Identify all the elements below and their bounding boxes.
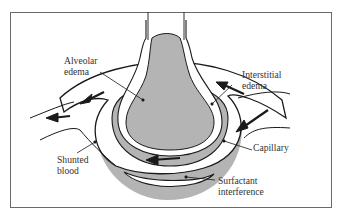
leader-shunted-blood: [77, 142, 95, 153]
label-capillary: Capillary: [253, 143, 289, 154]
label-interstitial-edema: Interstitial edema: [242, 70, 281, 91]
right-vessel-lower: [244, 127, 290, 138]
label-shunted-blood: Shunted blood: [57, 155, 88, 176]
label-alveolar-edema: Alveolar edema: [64, 56, 98, 77]
label-surfactant-interference: Surfactant interference: [218, 176, 264, 197]
alveolus-diagram: [0, 0, 342, 218]
